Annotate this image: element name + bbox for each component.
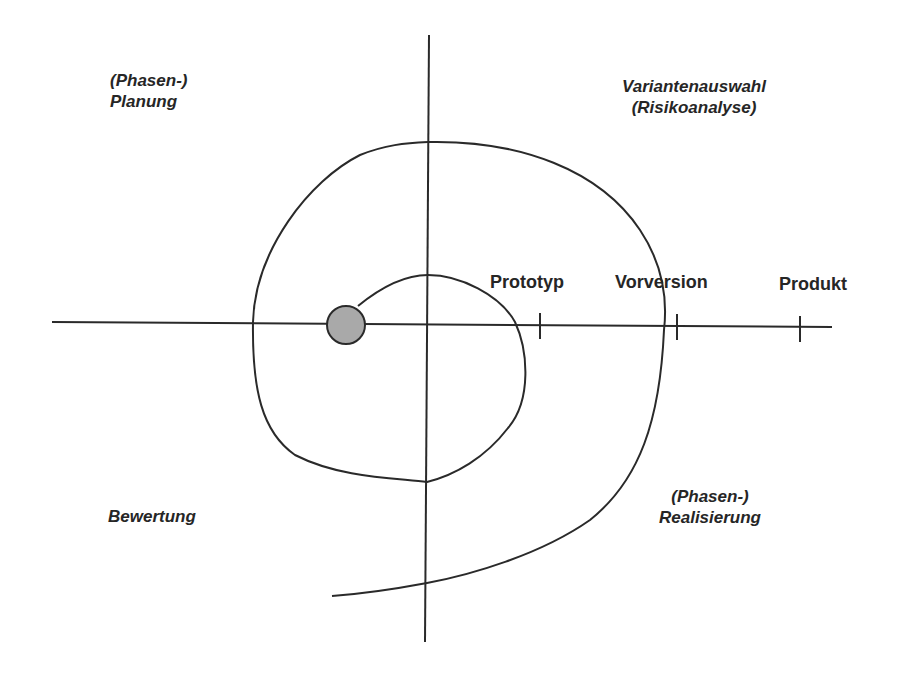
milestone-label-prototyp: Prototyp bbox=[490, 272, 564, 293]
start-point-dot bbox=[327, 306, 365, 344]
milestone-label-produkt: Produkt bbox=[779, 274, 847, 295]
planning-line1: (Phasen-) bbox=[110, 70, 187, 91]
spiral-curve bbox=[253, 142, 665, 596]
variant-selection-line1: Variantenauswahl bbox=[594, 76, 794, 97]
realization-line1: (Phasen-) bbox=[640, 486, 780, 507]
horizontal-axis bbox=[52, 322, 832, 327]
realization-line2: Realisierung bbox=[640, 507, 780, 528]
vertical-axis bbox=[425, 35, 429, 642]
quadrant-label-evaluation: Bewertung bbox=[108, 506, 196, 527]
quadrant-label-realization: (Phasen-) Realisierung bbox=[640, 486, 780, 528]
milestone-label-vorversion: Vorversion bbox=[615, 272, 708, 293]
planning-line2: Planung bbox=[110, 91, 187, 112]
variant-selection-line2: (Risikoanalyse) bbox=[594, 97, 794, 118]
quadrant-label-planning: (Phasen-) Planung bbox=[110, 70, 187, 112]
quadrant-label-variant-selection: Variantenauswahl (Risikoanalyse) bbox=[594, 76, 794, 118]
evaluation-line1: Bewertung bbox=[108, 506, 196, 527]
